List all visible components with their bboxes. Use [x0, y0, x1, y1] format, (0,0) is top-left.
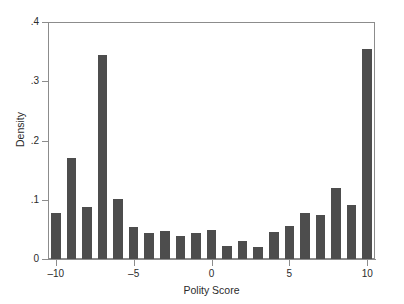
x-axis-title: Polity Score	[48, 285, 375, 296]
x-axis-tick-label: 10	[347, 268, 387, 279]
y-axis-title: Density	[15, 90, 26, 170]
histogram-bar	[347, 205, 357, 260]
y-axis-tick-label: .3	[0, 76, 39, 86]
y-axis-tick	[42, 22, 48, 23]
histogram-bar	[300, 213, 310, 259]
x-axis-tick	[212, 260, 213, 266]
histogram-bar	[285, 226, 295, 259]
histogram-bar	[67, 158, 77, 259]
histogram-bar	[176, 236, 186, 259]
histogram-bar	[269, 232, 279, 259]
bars-layer	[48, 22, 375, 259]
x-axis-tick-label: 5	[269, 268, 309, 279]
histogram-bar	[98, 55, 108, 259]
histogram-bar	[51, 213, 61, 259]
histogram-bar	[222, 246, 232, 259]
x-axis-tick-label: –5	[114, 268, 154, 279]
histogram-bar	[191, 233, 201, 259]
y-axis-tick-label: .1	[0, 195, 39, 205]
y-axis-tick	[42, 141, 48, 142]
histogram-figure: 0.1.2.3.4 Density –10–50510 Polity Score	[0, 0, 404, 304]
x-axis-tick	[56, 260, 57, 266]
histogram-bar	[113, 199, 123, 259]
histogram-bar	[316, 215, 326, 259]
y-axis-tick	[42, 200, 48, 201]
histogram-bar	[160, 231, 170, 259]
y-axis-tick-label: 0	[0, 254, 39, 264]
histogram-bar	[331, 188, 341, 259]
y-axis-tick	[42, 81, 48, 82]
histogram-bar	[238, 241, 248, 259]
y-axis-tick-label: .4	[0, 17, 39, 27]
x-axis-tick	[367, 260, 368, 266]
histogram-bar	[207, 230, 217, 259]
histogram-bar	[82, 207, 92, 259]
histogram-bar	[144, 233, 154, 259]
histogram-bar	[253, 247, 263, 259]
x-axis-tick	[289, 260, 290, 266]
x-axis-tick-label: 0	[192, 268, 232, 279]
y-axis-tick	[42, 259, 48, 260]
histogram-bar	[129, 227, 139, 259]
y-axis-line	[48, 22, 49, 260]
histogram-bar	[362, 49, 372, 259]
x-axis-tick	[134, 260, 135, 266]
x-axis-tick-label: –10	[36, 268, 76, 279]
